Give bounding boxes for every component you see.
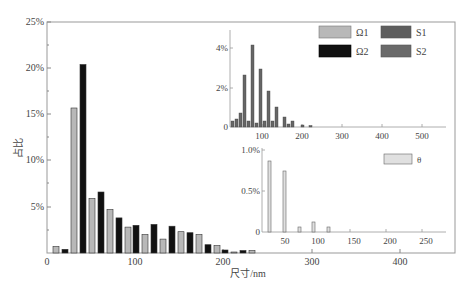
legend-swatch-omega2 [319,45,351,57]
inset1-y-tick-0: 0 [224,122,229,132]
y-axis-label: 占比 [12,138,24,158]
inset1-x-tick-200: 200 [295,131,309,141]
x-axis-label: 尺寸/nm [230,267,266,279]
inset2-y-tick-1: 1.0% [241,145,260,155]
chart-canvas: 25% 20% 15% 10% 5% 占比 0 100 200 300 400 … [0,0,468,285]
legend-swatch-s1 [381,26,411,38]
main-y-axis [47,22,51,230]
inset2-x-tick-150: 150 [347,236,361,246]
inset1-bars [231,45,312,127]
x-tick-100: 100 [128,256,143,267]
inset1-x-tick-400: 400 [375,131,389,141]
x-tick-200: 200 [216,256,231,267]
legend-swatch-s2 [381,45,411,57]
x-tick-300: 300 [305,256,320,267]
legend-label-s2: S2 [416,46,427,57]
y-tick-5: 5% [31,201,44,212]
inset2-y-tick-0: 0 [256,227,261,237]
legend-label-omega2: Ω2 [356,46,368,57]
legend-label-theta: θ [417,155,421,165]
legend-swatch-theta [384,154,412,164]
legend-label-omega1: Ω1 [356,27,368,38]
y-tick-20: 20% [26,62,44,73]
legend-swatch-omega1 [319,26,351,38]
y-tick-15: 15% [26,108,44,119]
inset1-y-tick-4: 4% [216,43,229,53]
inset1-x-tick-300: 300 [335,131,349,141]
x-tick-0: 0 [45,256,50,267]
inset2-x-tick-200: 200 [383,236,397,246]
inset2-x-tick-100: 100 [311,236,325,246]
inset-theta-chart: 1.0% 0.5% 0 50 100 150 200 250 θ [241,145,446,246]
inset1-x-tick-500: 500 [415,131,429,141]
inset2-y-tick-05: 0.5% [241,186,260,196]
inset2-x-tick-50: 50 [281,236,291,246]
y-tick-10: 10% [26,154,44,165]
legend: Ω1 S1 Ω2 S2 [319,26,427,57]
inset1-y-tick-2: 2% [216,83,229,93]
inset1-x-tick-100: 100 [255,131,269,141]
inset2-bars [268,161,330,232]
legend-label-s1: S1 [416,27,427,38]
y-tick-25: 25% [26,16,44,27]
x-tick-400: 400 [393,256,408,267]
inset2-x-tick-250: 250 [419,236,433,246]
